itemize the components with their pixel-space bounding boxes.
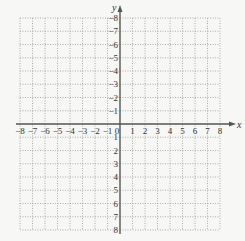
x-tick-label: 7 <box>205 126 210 136</box>
x-tick-label: −4 <box>65 126 75 136</box>
y-tick-label: −7 <box>108 26 118 36</box>
y-tick-label: −5 <box>108 53 118 63</box>
x-tick-label: −3 <box>78 126 88 136</box>
x-tick-label: 4 <box>168 126 173 136</box>
x-tick-label: 2 <box>143 126 148 136</box>
y-tick-label: 6 <box>114 199 119 209</box>
x-tick-label: −2 <box>90 126 100 136</box>
y-tick-label: −6 <box>108 40 118 50</box>
y-tick-label: −3 <box>108 79 118 89</box>
y-tick-label: 2 <box>114 146 119 156</box>
x-tick-labels: −8−7−6−5−4−3−2−1012345678 <box>15 126 223 136</box>
axes <box>16 5 236 234</box>
y-tick-label: 8 <box>114 225 119 235</box>
y-tick-label: 5 <box>114 185 119 195</box>
x-tick-label: −5 <box>53 126 63 136</box>
y-tick-label: 7 <box>114 212 119 222</box>
x-axis-arrow-icon <box>229 122 236 127</box>
x-tick-label: 1 <box>130 126 135 136</box>
x-tick-label: −8 <box>15 126 25 136</box>
y-tick-label: −8 <box>108 13 118 23</box>
x-tick-label: −7 <box>28 126 38 136</box>
y-tick-label: −1 <box>108 106 118 116</box>
x-tick-label: 5 <box>180 126 185 136</box>
x-tick-label: −6 <box>40 126 50 136</box>
x-tick-label: 6 <box>193 126 198 136</box>
x-tick-label: 3 <box>155 126 160 136</box>
y-axis-label: y <box>111 2 117 13</box>
x-tick-label: −1 <box>103 126 113 136</box>
x-tick-label: 8 <box>218 126 223 136</box>
x-axis-label: x <box>236 119 242 130</box>
y-tick-label: 1 <box>114 132 119 142</box>
coordinate-plane: −8−7−6−5−4−3−2−1012345678 87654321−1−2−3… <box>0 0 245 241</box>
y-tick-label: −2 <box>108 93 118 103</box>
y-axis-arrow-icon <box>118 5 123 12</box>
y-tick-label: 3 <box>114 159 119 169</box>
y-tick-label: 4 <box>114 172 119 182</box>
y-tick-label: −4 <box>108 66 118 76</box>
